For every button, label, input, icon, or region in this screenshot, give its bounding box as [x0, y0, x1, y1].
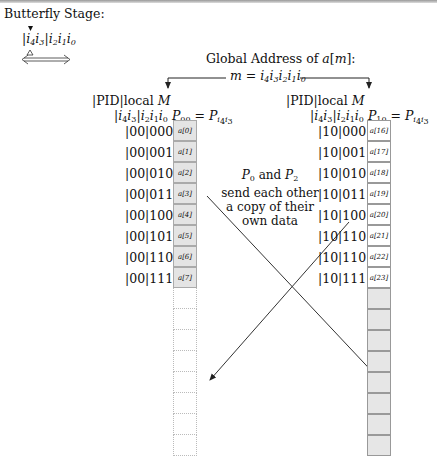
right-empty-slot: [367, 288, 391, 309]
left-memory-cell: a[3]: [173, 183, 197, 204]
left-memory-cell: a[4]: [173, 204, 197, 225]
right-address-1: |10|001: [318, 146, 366, 160]
exchange-note-line4: own data: [214, 214, 326, 228]
left-address-3: |00|011: [125, 188, 173, 202]
left-memory-cell: a[5]: [173, 225, 197, 246]
right-empty-slot: [367, 414, 391, 435]
right-header-pid-local: |PID|local M: [286, 94, 365, 108]
left-memory-cell: a[6]: [173, 246, 197, 267]
right-memory-cell: a[19]: [367, 183, 391, 204]
left-empty-slot: [173, 330, 197, 351]
exchange-note-line3: a copy of their: [214, 200, 326, 214]
right-memory-cell: a[20]: [367, 204, 391, 225]
pid-marker-hollow-icon: [27, 50, 33, 55]
right-address-7: |10|111: [318, 272, 366, 286]
left-empty-slot: [173, 351, 197, 372]
right-memory-cell: a[23]: [367, 267, 391, 288]
right-address-6: |10|110: [318, 251, 366, 265]
left-address-2: |00|010: [125, 167, 173, 181]
left-empty-slot: [173, 393, 197, 414]
left-empty-slot: [173, 435, 197, 456]
right-memory-cell: a[18]: [367, 162, 391, 183]
right-address-5: |10|110: [318, 230, 366, 244]
right-address-0: |10|000: [318, 125, 366, 139]
exchange-note-line2: send each other: [214, 186, 326, 200]
exchange-note: P0 and P2 send each other a copy of thei…: [214, 168, 326, 228]
right-memory-cell: a[16]: [367, 120, 391, 141]
right-memory-cell: a[22]: [367, 246, 391, 267]
left-address-1: |00|001: [125, 146, 173, 160]
exchange-note-line1: P0 and P2: [214, 168, 326, 186]
swap-double-arrow-icon: [22, 55, 70, 64]
right-empty-slot: [367, 393, 391, 414]
left-memory-cell: a[2]: [173, 162, 197, 183]
left-address-4: |00|100: [125, 209, 173, 223]
right-empty-slot: [367, 351, 391, 372]
left-memory-cell: a[1]: [173, 141, 197, 162]
global-address-formula: m = i4i3i2i1i0: [230, 69, 306, 87]
left-memory-cell: a[0]: [173, 120, 197, 141]
left-empty-slot: [173, 372, 197, 393]
right-empty-slot: [367, 330, 391, 351]
right-empty-slot: [367, 372, 391, 393]
right-memory-cell: a[17]: [367, 141, 391, 162]
left-address-5: |00|101: [125, 230, 173, 244]
right-empty-slot: [367, 309, 391, 330]
left-empty-slot: [173, 414, 197, 435]
right-empty-slot: [367, 435, 391, 456]
pid-marker-filled-icon: [28, 26, 33, 31]
left-empty-slot: [173, 309, 197, 330]
left-empty-slot: [173, 288, 197, 309]
left-memory-cell: a[7]: [173, 267, 197, 288]
left-address-6: |00|110: [125, 251, 173, 265]
global-address-label: Global Address of a[m]:: [206, 52, 356, 66]
left-header-pid-local: |PID|local M: [92, 94, 171, 108]
left-address-0: |00|000: [125, 125, 173, 139]
right-memory-cell: a[21]: [367, 225, 391, 246]
left-address-7: |00|111: [125, 272, 173, 286]
